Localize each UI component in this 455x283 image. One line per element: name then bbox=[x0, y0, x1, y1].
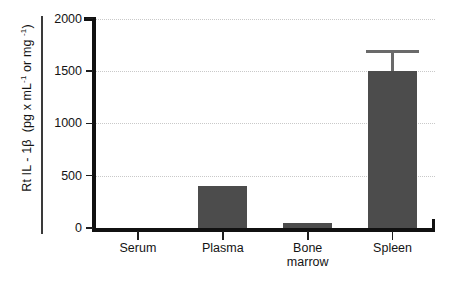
x-tick-mark-3 bbox=[392, 231, 394, 240]
x-axis-line bbox=[92, 228, 435, 232]
bar-chart-figure: Rt IL - 1β (pg x mL-1 or mg -1) 05001000… bbox=[0, 0, 455, 283]
y-tick-mark-1500 bbox=[86, 70, 93, 72]
y-axis-title-spacer bbox=[20, 132, 34, 139]
y-tick-mark-2000 bbox=[86, 18, 93, 20]
y-axis-title-sup-1: -1 bbox=[19, 76, 28, 83]
y-tick-label-1000: 1000 bbox=[36, 116, 82, 130]
x-tick-label-plasma: Plasma bbox=[202, 241, 244, 255]
gridline-2000 bbox=[96, 19, 435, 21]
y-axis-title-units-suffix: ) bbox=[20, 24, 34, 28]
y-tick-label-1500: 1500 bbox=[36, 64, 82, 78]
x-tick-mark-0 bbox=[137, 231, 139, 240]
errorbar-cap-spleen bbox=[366, 50, 419, 53]
y-tick-label-2000: 2000 bbox=[36, 12, 82, 26]
x-tick-mark-2 bbox=[307, 231, 309, 240]
y-axis-line bbox=[92, 17, 96, 232]
x-tick-label-serum: Serum bbox=[120, 241, 157, 255]
bar-spleen bbox=[368, 71, 417, 228]
y-axis-title-sup-2: -1 bbox=[19, 29, 28, 36]
x-axis-right-cap bbox=[432, 219, 436, 232]
x-tick-label-line2-2: marrow bbox=[287, 255, 329, 269]
y-axis-title-units-middle: or mg bbox=[20, 36, 34, 76]
y-axis-title-units-prefix: (pg x mL bbox=[20, 83, 34, 132]
x-tick-mark-1 bbox=[222, 231, 224, 240]
y-tick-label-0: 0 bbox=[36, 221, 82, 235]
x-tick-label-bone-marrow: Bonemarrow bbox=[287, 241, 329, 269]
x-tick-label-spleen: Spleen bbox=[373, 241, 412, 255]
y-axis-title: Rt IL - 1β (pg x mL-1 or mg -1) bbox=[20, 0, 40, 218]
errorbar-stem-spleen bbox=[391, 50, 393, 71]
y-tick-mark-0 bbox=[86, 227, 93, 229]
y-tick-label-500: 500 bbox=[36, 169, 82, 183]
bar-plasma bbox=[198, 186, 247, 228]
y-tick-mark-500 bbox=[86, 175, 93, 177]
y-axis-title-main: Rt IL - 1β bbox=[20, 139, 34, 191]
y-tick-mark-1000 bbox=[86, 123, 93, 125]
